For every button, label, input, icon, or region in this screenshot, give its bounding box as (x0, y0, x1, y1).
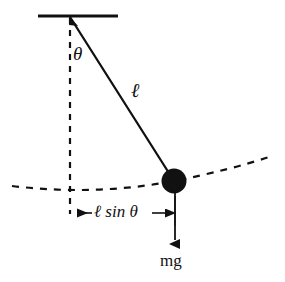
horizontal-displacement-label: ℓ sin θ (94, 203, 138, 220)
pivot-point (69, 17, 78, 26)
pendulum-diagram-canvas (0, 0, 285, 282)
pendulum-bob (162, 169, 187, 194)
swing-arc-path (12, 156, 272, 190)
weight-force-label: mg (160, 252, 182, 269)
pendulum-figure: θ ℓ ℓ sin θ mg (0, 0, 285, 282)
pendulum-string (70, 17, 174, 181)
angle-theta-label: θ (73, 44, 82, 63)
string-length-label: ℓ (131, 80, 139, 100)
